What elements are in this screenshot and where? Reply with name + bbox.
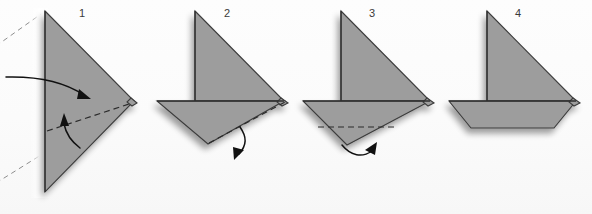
- step-3-hull: [303, 101, 430, 145]
- step-2-hull: [157, 101, 284, 144]
- step-1-number: 1: [79, 7, 85, 19]
- step-3-group: 3: [303, 7, 434, 155]
- step-3-sail: [341, 11, 430, 101]
- origami-diagram: 1 2: [0, 0, 592, 214]
- step-3-paper: [303, 11, 434, 145]
- diagram-canvas: 1 2: [0, 0, 592, 214]
- step-2-group: 2: [157, 7, 288, 160]
- step-1-group: 1: [0, 7, 137, 198]
- step-4-group: 4: [449, 7, 580, 128]
- step-3-number: 3: [369, 7, 375, 19]
- step-1-paper: [45, 11, 137, 192]
- step-2-sail: [195, 11, 284, 101]
- step-4-hull: [449, 101, 576, 128]
- step-2-paper: [157, 11, 288, 144]
- step-2-number: 2: [224, 7, 230, 19]
- step-4-number: 4: [515, 7, 521, 19]
- step-4-paper: [449, 11, 580, 128]
- step-4-sail: [487, 11, 576, 101]
- step-1-triangle-front: [45, 11, 134, 192]
